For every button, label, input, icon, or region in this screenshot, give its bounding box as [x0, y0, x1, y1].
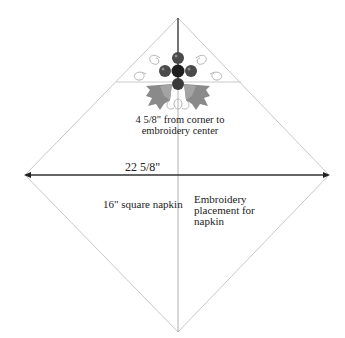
width-dimension-arrow: [24, 172, 330, 178]
distance-label-line2: embroidery center: [118, 125, 242, 136]
width-label: 22 5/8": [125, 162, 175, 173]
placement-label: Embroidery placement for napkin: [194, 194, 264, 227]
placement-label-line3: napkin: [194, 216, 264, 227]
berry-icon: [159, 52, 197, 90]
distance-label-line1: 4 5/8" from corner to: [118, 114, 242, 125]
napkin-size-label: 16" square napkin: [103, 199, 183, 210]
distance-label: 4 5/8" from corner to embroidery center: [118, 114, 242, 136]
